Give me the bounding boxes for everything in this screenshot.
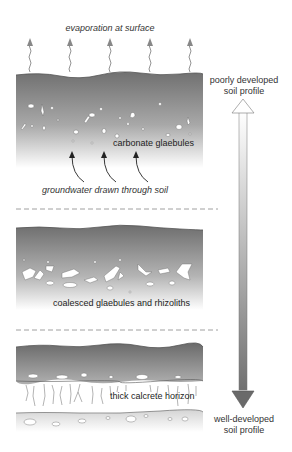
soil-layer-1: [16, 72, 203, 168]
evaporation-arrowheads: [27, 38, 193, 46]
evaporation-arrows: [29, 42, 191, 72]
poorly-developed-label: poorly developed soil profile: [208, 75, 280, 97]
stage-3-label: thick calcrete horizon: [110, 391, 195, 402]
development-arrow: [232, 99, 254, 408]
stage-2-label: coalesced glaebules and rhizoliths: [53, 298, 190, 309]
well-developed-line1: well-developed: [208, 414, 280, 425]
soil-diagram: [0, 0, 292, 452]
stage-1-label: carbonate glaebules: [113, 138, 194, 149]
well-developed-label: well-developed soil profile: [208, 414, 280, 436]
evaporation-label: evaporation at surface: [60, 23, 160, 34]
poorly-developed-line1: poorly developed: [208, 75, 280, 86]
groundwater-label: groundwater drawn through soil: [30, 185, 180, 196]
poorly-developed-line2: soil profile: [208, 86, 280, 97]
well-developed-line2: soil profile: [208, 425, 280, 436]
